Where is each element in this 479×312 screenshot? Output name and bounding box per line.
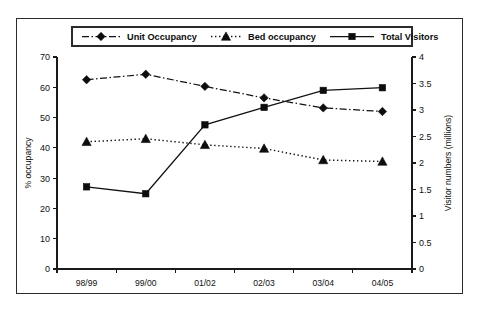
data-point-diamond — [319, 104, 327, 112]
series-line — [87, 88, 383, 194]
series-line — [87, 74, 383, 111]
x-tick-label: 03/04 — [312, 278, 334, 288]
y-tick-label-left: 20 — [40, 204, 50, 214]
data-point-square — [202, 122, 208, 128]
y-tick-label-left: 60 — [40, 83, 50, 93]
y-tick-label-left: 50 — [40, 113, 50, 123]
series-line — [87, 139, 383, 162]
y-tick-label-right: 4 — [419, 52, 424, 62]
y-tick-label-left: 0 — [45, 264, 50, 274]
line-chart: 01020304050607000.511.522.533.5498/9999/… — [17, 19, 462, 293]
y-tick-label-left: 70 — [40, 52, 50, 62]
data-point-triangle — [319, 155, 328, 163]
legend-label: Total Visitors — [381, 32, 438, 42]
y-tick-label-right: 2.5 — [419, 132, 432, 142]
legend-marker-square — [349, 33, 355, 39]
y-tick-label-right: 2 — [419, 158, 424, 168]
x-tick-label: 01/02 — [194, 278, 216, 288]
data-point-diamond — [378, 107, 386, 115]
y-tick-label-left: 30 — [40, 174, 50, 184]
chart-frame: 01020304050607000.511.522.533.5498/9999/… — [16, 18, 463, 294]
series-total-visitors — [83, 85, 385, 197]
data-point-triangle — [378, 157, 387, 165]
data-point-triangle — [259, 144, 268, 152]
y-tick-label-right: 0 — [419, 264, 424, 274]
y-tick-label-right: 0.5 — [419, 238, 432, 248]
data-point-triangle — [200, 140, 209, 148]
x-tick-label: 98/99 — [76, 278, 98, 288]
data-point-diamond — [260, 94, 268, 102]
data-point-square — [320, 87, 326, 93]
data-point-square — [143, 191, 149, 197]
data-point-diamond — [201, 82, 209, 90]
y-axis-title-left: % occupancy — [23, 137, 33, 189]
y-axis-title-right: Visitor numbers (millions) — [443, 115, 453, 211]
data-point-triangle — [82, 137, 91, 145]
x-tick-label: 99/00 — [135, 278, 157, 288]
y-tick-label-right: 1.5 — [419, 185, 432, 195]
y-tick-label-right: 1 — [419, 211, 424, 221]
y-tick-label-right: 3 — [419, 105, 424, 115]
y-tick-label-left: 10 — [40, 234, 50, 244]
x-tick-label: 04/05 — [372, 278, 394, 288]
legend-label: Bed occupancy — [248, 32, 317, 42]
data-point-square — [261, 104, 267, 110]
series-unit-occupancy — [82, 70, 386, 116]
y-tick-label-left: 40 — [40, 143, 50, 153]
series-bed-occupancy — [82, 134, 387, 165]
data-point-square — [83, 184, 89, 190]
data-point-diamond — [82, 76, 90, 84]
data-point-square — [379, 85, 385, 91]
legend-item-bed-occupancy[interactable]: Bed occupancy — [211, 32, 317, 42]
x-tick-label: 02/03 — [253, 278, 275, 288]
data-point-diamond — [142, 70, 150, 78]
legend-label: Unit Occupancy — [127, 32, 198, 42]
y-tick-label-right: 3.5 — [419, 79, 432, 89]
